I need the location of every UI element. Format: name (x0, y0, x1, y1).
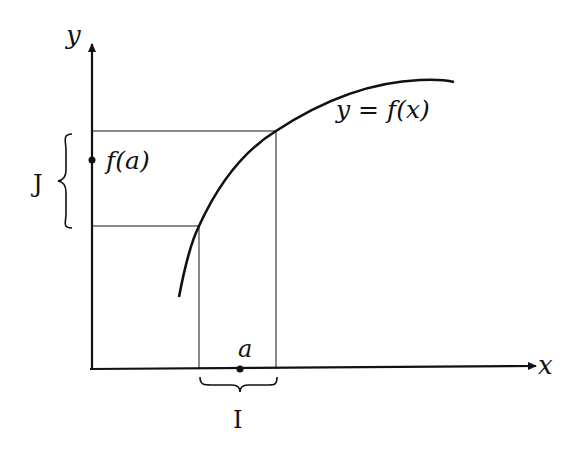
a-label: a (238, 335, 252, 363)
y-axis-label: y (65, 20, 81, 50)
x-axis (90, 366, 536, 369)
interval-j-label: J (30, 170, 43, 198)
a-point (237, 366, 244, 373)
interval-j-brace (58, 134, 72, 228)
diagram-canvas: y x y = f(x) f(a) a J I (0, 0, 575, 451)
f-of-a-label: f(a) (104, 146, 150, 175)
interval-i-label: I (233, 406, 242, 434)
f-of-a-point (89, 157, 96, 164)
interval-i-brace (200, 377, 277, 392)
x-axis-label: x (538, 350, 553, 380)
curve-label: y = f(x) (335, 95, 430, 124)
